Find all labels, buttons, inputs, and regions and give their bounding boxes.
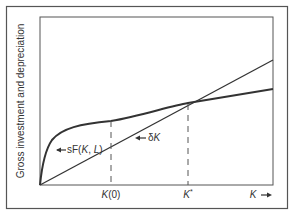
solow-diagram: Gross investment and depreciation sF(K, …: [0, 0, 294, 214]
y-axis-label: Gross investment and depreciation: [15, 24, 26, 179]
depreciation-label-arrow: [135, 136, 146, 141]
plot-area: [40, 17, 273, 185]
investment-label-arrow: [56, 148, 66, 153]
k0-tick-label: K(0): [102, 189, 121, 200]
x-axis-label: K: [250, 189, 258, 200]
depreciation-line-label: δK: [148, 132, 162, 143]
investment-curve-label: sF(K, L): [67, 144, 103, 155]
outer-frame: [7, 7, 288, 209]
kstar-tick-label: K*: [183, 188, 193, 200]
depreciation-line: [40, 60, 273, 185]
x-axis-arrow-icon: [261, 193, 272, 198]
